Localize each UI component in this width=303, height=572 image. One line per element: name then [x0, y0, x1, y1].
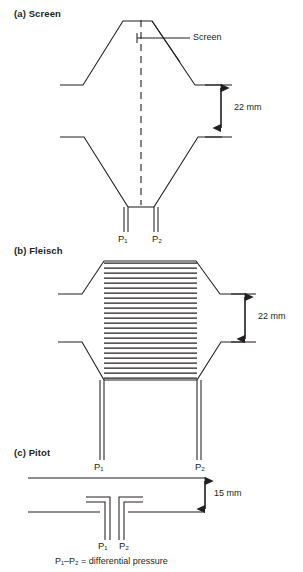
fleisch-lower-wall [58, 342, 104, 460]
differential-pressure-caption: P₁–P₂ = differential pressure [55, 556, 168, 566]
screen-upper-wall [60, 21, 222, 85]
dimension-label-c: 15 mm [214, 488, 242, 498]
fleisch-mesh [104, 263, 197, 378]
panel-c-pitot-drawing [28, 478, 205, 540]
screen-lower-wall-right [154, 137, 222, 232]
dimension-label-b: 22 mm [258, 311, 286, 321]
port-label-a-p1: P₁ [118, 233, 128, 244]
pitot-probe-p2-inner [124, 502, 143, 540]
panel-a-title: (a) Screen [14, 8, 61, 19]
fleisch-lower-wall-right [197, 342, 245, 460]
pitot-probe-p2-outer [119, 497, 143, 540]
panel-b-fleisch-drawing [58, 261, 256, 460]
pitot-probe-p1-inner [86, 502, 105, 540]
screen-lower-wall [60, 137, 128, 232]
port-label-b-p1: P₁ [94, 461, 104, 472]
port-label-c-p2: P₂ [119, 540, 129, 551]
pitot-probe-p1-outer [86, 497, 110, 540]
port-label-b-p2: P₂ [195, 461, 205, 472]
pneumotachograph-figure: (a) Screen (b) Fleisch (c) Pitot Screen … [0, 0, 303, 572]
screen-annotation-label: Screen [193, 32, 222, 42]
dimension-label-a: 22 mm [234, 102, 262, 112]
screen-leader-diagonal [152, 21, 180, 62]
panel-b-title: (b) Fleisch [14, 245, 63, 256]
panel-c-title: (c) Pitot [14, 447, 50, 458]
port-label-c-p1: P₁ [98, 540, 108, 551]
figure-artwork [0, 0, 303, 572]
port-label-a-p2: P₂ [152, 233, 162, 244]
panel-a-screen-drawing [60, 20, 232, 232]
